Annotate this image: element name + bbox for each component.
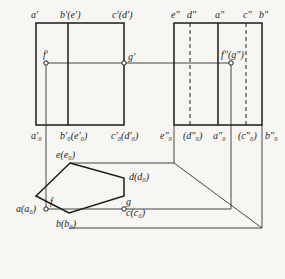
label-a0-prime: a′₀: [31, 130, 42, 141]
label-c-dprime: c″: [243, 9, 252, 20]
side-view: [174, 23, 262, 228]
label-a-prime: a′: [31, 9, 39, 20]
label-c0-prime: c′₀(d′₀): [111, 130, 139, 142]
label-b0-dprime: b″₀: [265, 130, 278, 141]
label-a-dprime: a″: [215, 9, 225, 20]
label-c: c(c₀): [126, 207, 146, 219]
label-c0-dprime: (c″₀): [238, 130, 257, 142]
label-b-dprime: b″: [259, 9, 269, 20]
label-e-dprime: e″: [171, 9, 180, 20]
label-d0-dprime: (d″₀): [183, 130, 203, 142]
labels: a′ b′(e′) c′(d′) f′ g′ a′₀ b′₀(e′₀) c′₀(…: [16, 9, 278, 230]
miter-line: [174, 163, 262, 228]
label-b-prime: b′(e′): [60, 9, 81, 21]
point-g-front: [122, 61, 126, 65]
label-b: b(b₀): [56, 218, 77, 230]
point-f-front: [44, 61, 48, 65]
label-d: d(d₀): [129, 171, 150, 183]
label-e: e(e₀): [56, 149, 76, 161]
label-g-prime: g′: [128, 51, 136, 62]
label-a0-dprime: a″₀: [213, 130, 226, 141]
label-d-dprime: d″: [187, 9, 197, 20]
label-f-prime: f′: [43, 49, 49, 60]
label-a: a(a₀): [16, 203, 37, 215]
projection-diagram: a′ b′(e′) c′(d′) f′ g′ a′₀ b′₀(e′₀) c′₀(…: [0, 0, 285, 279]
point-fg-side: [229, 61, 233, 65]
label-fg-dprime: f″(g″): [221, 49, 244, 61]
label-b0-prime: b′₀(e′₀): [60, 130, 88, 142]
label-g: g: [126, 196, 131, 207]
label-c-prime: c′(d′): [112, 9, 133, 21]
label-e0-dprime: e″₀: [160, 130, 173, 141]
front-view-outline: [36, 23, 124, 125]
point-f-top: [44, 207, 48, 211]
